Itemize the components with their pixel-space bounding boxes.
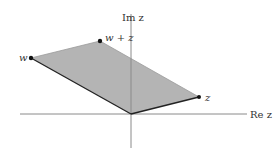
complex-plane-diagram: w w + z z Re z Im z: [0, 0, 280, 159]
label-real-axis: Re z: [250, 109, 272, 120]
point-w: [29, 56, 33, 60]
label-z: z: [204, 92, 211, 103]
label-w: w: [19, 52, 28, 63]
label-w-plus-z: w + z: [105, 32, 134, 43]
label-imaginary-axis: Im z: [122, 12, 144, 23]
point-w-plus-z: [98, 39, 102, 43]
point-z: [197, 95, 201, 99]
